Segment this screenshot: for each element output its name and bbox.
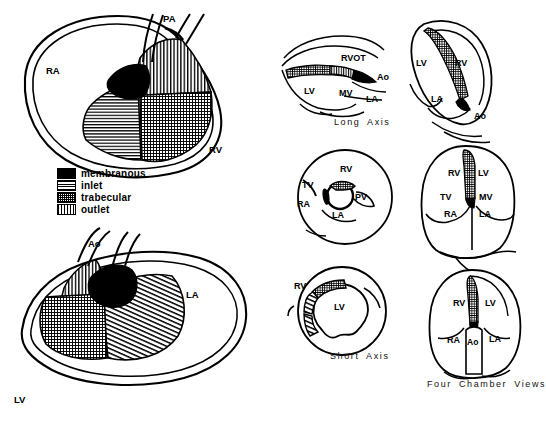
panel-short-axis: RV LV — [288, 267, 386, 355]
label-ra: RA — [46, 65, 60, 76]
label-mv-fcu: MV — [479, 192, 493, 202]
legend-label-membranous: membranous — [81, 168, 146, 179]
label-ra-sab: RA — [297, 199, 310, 209]
panel-four-chamber-upper: RV LV TV MV RA LA — [422, 146, 516, 274]
legend-label-outlet: outlet — [81, 204, 109, 215]
label-pa: PA — [163, 13, 176, 24]
swatch-trabecular-icon — [57, 192, 76, 203]
label-lv-fcl: LV — [485, 298, 496, 308]
legend-item-inlet: inlet — [57, 179, 207, 191]
label-ao-la: Ao — [377, 72, 389, 82]
la-apex-line — [320, 112, 364, 117]
label-la-sab: LA — [332, 210, 344, 220]
panel-short-axis-basal: RV TV RA PV LA — [297, 150, 392, 244]
la-rvot-upper — [284, 36, 384, 58]
label-ao-lv: Ao — [88, 238, 101, 249]
panel-long-axis: RVOT Ao LV MV LA — [282, 36, 389, 117]
legend-label-inlet: inlet — [81, 180, 103, 191]
panel-left-ventricle-view: Ao LA LV — [14, 228, 246, 405]
fcl-aortic-root — [466, 327, 482, 374]
label-mv-la: MV — [339, 88, 353, 98]
caption-short-axis: Short Axis — [330, 351, 390, 361]
label-lv-la: LV — [304, 86, 315, 96]
panel-apical-long-axis: LV RV LA Ao — [410, 21, 492, 143]
label-rv-sab: RV — [340, 164, 352, 174]
label-lv-fcu: LV — [478, 168, 489, 178]
alax-ao-lower — [444, 132, 490, 143]
label-rv-fcl: RV — [453, 298, 465, 308]
label-la-lv: LA — [186, 289, 199, 300]
legend-label-trabecular: trabecular — [81, 192, 131, 203]
panel-four-chamber-lower: RV LV RA Ao LA — [430, 270, 521, 379]
label-ra-fcu: RA — [444, 209, 457, 219]
legend-item-outlet: outlet — [57, 203, 207, 215]
label-lv-sa: LV — [334, 302, 345, 312]
label-rv-sa: RV — [294, 281, 306, 291]
label-la-fcu: LA — [479, 209, 491, 219]
label-ao-fcl: Ao — [467, 337, 478, 347]
label-la-la: LA — [366, 94, 378, 104]
label-tv-sab: TV — [302, 180, 314, 190]
la-septum-membranous — [352, 70, 376, 83]
swatch-membranous-icon — [57, 168, 76, 179]
label-la-fcl: LA — [489, 334, 501, 344]
label-rv-alax: RV — [455, 58, 467, 68]
swatch-inlet-icon — [57, 180, 76, 191]
legend-item-trabecular: trabecular — [57, 191, 207, 203]
label-ao-alax: Ao — [474, 111, 486, 121]
label-pv-sab: PV — [355, 192, 367, 202]
caption-long-axis: Long Axis — [334, 117, 390, 127]
swatch-outlet-icon — [57, 204, 76, 215]
label-rv: RV — [209, 144, 223, 155]
legend-item-membranous: membranous — [57, 167, 207, 179]
pattern-legend: membranous inlet trabecular outlet — [57, 167, 207, 215]
caption-four-chamber-views: Four Chamber Views — [427, 379, 546, 389]
la-ao-line — [352, 82, 386, 92]
panel-right-ventricle-view: PA RA RV — [25, 13, 223, 177]
sa-left-line — [288, 306, 294, 316]
label-la-alax: LA — [431, 94, 443, 104]
label-lv-alax: LV — [416, 58, 427, 68]
label-lv: LV — [14, 394, 26, 405]
label-rvot: RVOT — [341, 53, 366, 63]
label-ra-fcl: RA — [447, 335, 460, 345]
label-rv-fcu: RV — [448, 168, 460, 178]
label-tv-fcu: TV — [440, 192, 452, 202]
